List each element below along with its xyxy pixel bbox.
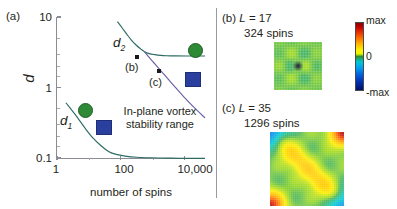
- x-tick-label-1: 1: [44, 163, 68, 175]
- marker-square-large-system: [185, 72, 201, 87]
- panel-b-heading: (b) L = 17: [222, 12, 272, 24]
- stability-range-line2: stability range: [126, 118, 194, 130]
- panel-c-tag: (c): [222, 102, 235, 114]
- curve-label-d2: d2: [113, 35, 125, 53]
- figure-root: (a) d 10 1 0.1 1 100 10,000 number of sp…: [0, 0, 397, 209]
- colorbar-label-max: max: [366, 14, 386, 26]
- panel-a-tag: (a): [6, 10, 20, 22]
- panel-b-tag: (b): [222, 12, 236, 24]
- panel-b-heatmap: [274, 42, 322, 90]
- panel-c-heatmap: [270, 132, 344, 206]
- panel-a-curves: [57, 17, 205, 159]
- panel-c-spin-count: 1296 spins: [244, 117, 300, 129]
- stability-range-line1: In-plane vortex: [124, 105, 197, 117]
- stability-range-annotation: In-plane vortex stability range: [112, 105, 208, 131]
- colorbar-label-zero: 0: [366, 50, 372, 62]
- y-tick-label-1: 1: [26, 82, 52, 94]
- panel-b-spin-count: 324 spins: [244, 27, 293, 39]
- x-axis-label: number of spins: [56, 186, 206, 198]
- curve-label-d1: d1: [60, 113, 72, 131]
- data-point-c-label: (c): [149, 76, 162, 88]
- colorbar: [355, 22, 364, 91]
- panel-divider: [216, 8, 217, 198]
- panel-b-L-value: = 17: [249, 12, 272, 24]
- marker-circle-large-system: [188, 43, 203, 58]
- panel-c-L-symbol: L: [239, 102, 245, 114]
- data-point-b-marker: [135, 55, 139, 59]
- marker-square-small-system: [96, 120, 112, 135]
- panel-a-plot-area: d1 d2 (b) (c): [56, 17, 204, 159]
- y-tick-label-10: 10: [26, 11, 52, 23]
- colorbar-label-neg-max: -max: [366, 86, 389, 98]
- marker-circle-small-system: [78, 103, 93, 118]
- panel-b-L-symbol: L: [239, 12, 245, 24]
- panel-c: (c) L = 35 1296 spins: [222, 100, 397, 209]
- data-point-c-marker: [157, 69, 161, 73]
- panel-c-heading: (c) L = 35: [222, 102, 271, 114]
- panel-a: (a) d 10 1 0.1 1 100 10,000 number of sp…: [0, 0, 213, 209]
- x-tick-label-10000: 10,000: [172, 163, 218, 175]
- data-point-b-label: (b): [125, 61, 138, 73]
- x-tick-label-100: 100: [108, 163, 140, 175]
- panel-c-L-value: = 35: [248, 102, 271, 114]
